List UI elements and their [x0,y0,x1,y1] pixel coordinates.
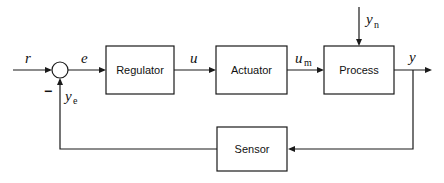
signal-u: u [190,50,198,66]
arrowhead-icon [356,39,362,46]
actuator-label: Actuator [231,64,272,76]
block-diagram: Regulator Actuator Process Sensor r e u … [0,0,444,183]
minus-sign: − [44,83,52,99]
signal-r: r [25,50,31,66]
arrowhead-icon [99,67,106,73]
signal-ye: y [63,88,72,104]
arrowhead-icon [425,67,432,73]
summing-junction [52,62,68,78]
signal-e: e [81,50,88,66]
arrowhead-icon [288,146,295,152]
signal-yn-sub: n [374,19,379,30]
arrowhead-icon [45,67,52,73]
arrowhead-icon [57,78,63,85]
signal-ye-sub: e [73,95,78,106]
sensor-label: Sensor [235,143,270,155]
arrowhead-icon [317,67,324,73]
signal-um: u [295,50,303,66]
signal-y: y [407,49,416,65]
signal-um-sub: m [304,57,312,68]
process-label: Process [339,64,379,76]
regulator-label: Regulator [116,64,164,76]
arrowhead-icon [209,67,216,73]
signal-yn: y [364,11,373,27]
